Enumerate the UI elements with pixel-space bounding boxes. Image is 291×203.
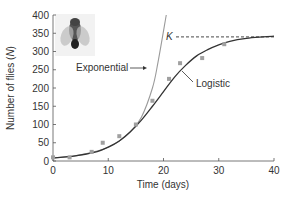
data-point bbox=[222, 42, 226, 46]
y-axis-label: Number of flies (N) bbox=[5, 46, 16, 130]
data-point bbox=[150, 99, 154, 103]
data-point bbox=[178, 61, 182, 65]
y-tick-label: 100 bbox=[32, 119, 49, 130]
data-point bbox=[68, 155, 72, 159]
logistic-pointer bbox=[182, 71, 193, 82]
logistic-label: Logistic bbox=[196, 78, 230, 89]
y-tick-label: 50 bbox=[38, 137, 50, 148]
data-point bbox=[134, 123, 138, 127]
arrow-head-icon bbox=[143, 66, 147, 70]
y-tick-label: 400 bbox=[32, 10, 49, 21]
y-tick-label: 0 bbox=[43, 156, 49, 167]
data-point bbox=[117, 134, 121, 138]
x-tick-label: 40 bbox=[268, 165, 280, 176]
data-point bbox=[200, 56, 204, 60]
fruit-fly-image bbox=[55, 14, 95, 56]
data-point bbox=[101, 141, 105, 145]
data-point bbox=[90, 150, 94, 154]
x-tick-label: 10 bbox=[103, 165, 115, 176]
exponential-label: Exponential bbox=[76, 62, 128, 73]
y-tick-label: 350 bbox=[32, 28, 49, 39]
k-label: K bbox=[166, 31, 174, 42]
x-tick-label: 0 bbox=[50, 165, 56, 176]
chart-svg: 010203040050100150200250300350400 Number… bbox=[0, 0, 291, 203]
population-growth-chart: 010203040050100150200250300350400 Number… bbox=[0, 0, 291, 203]
y-tick-label: 300 bbox=[32, 46, 49, 57]
data-point bbox=[167, 77, 171, 81]
data-point bbox=[51, 155, 55, 159]
y-tick-label: 200 bbox=[32, 83, 49, 94]
x-axis-label: Time (days) bbox=[137, 179, 189, 190]
y-tick-label: 250 bbox=[32, 64, 49, 75]
y-tick-label: 150 bbox=[32, 101, 49, 112]
x-tick-label: 30 bbox=[213, 165, 225, 176]
x-tick-label: 20 bbox=[158, 165, 170, 176]
